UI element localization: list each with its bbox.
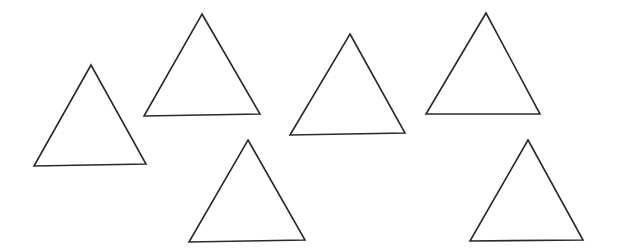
triangle-shape-4 [426,13,540,114]
diagram-canvas [0,0,617,252]
triangles-figure [0,0,617,252]
triangle-shape-3 [290,34,405,135]
triangle-shape-6 [470,140,583,241]
triangle-shape-1 [34,65,146,166]
triangle-shape-5 [189,140,305,242]
triangle-shape-2 [144,14,260,116]
